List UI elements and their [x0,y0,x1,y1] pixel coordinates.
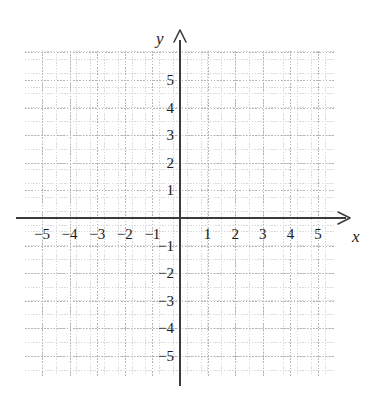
x-tick-label: 1 [204,227,212,242]
gridline-vertical [70,51,71,376]
gridline-vertical [290,51,291,376]
y-tick-label: 4 [167,100,175,115]
coordinate-plane-figure: · · · −5−4−3−2−11234554321−1−2−3−4−5 x y [0,0,379,403]
x-axis-line [16,217,346,219]
y-tick-label: −5 [158,349,174,364]
gridline-vertical [97,51,98,376]
y-tick-label: 1 [167,183,175,198]
y-axis-arrow-icon [172,28,188,44]
x-tick-label: −3 [89,227,105,242]
x-axis-label: x [352,228,360,245]
clipped-text-remnant: · · · [0,0,379,5]
y-tick-label: 3 [167,128,175,143]
y-tick-label: 5 [167,73,175,88]
x-tick-label: −2 [117,227,133,242]
y-tick-label: −4 [158,321,174,336]
y-tick-label: 2 [167,155,175,170]
gridline-vertical [208,51,209,376]
x-axis-arrow-icon [337,210,353,226]
gridline-vertical [152,51,153,376]
x-tick-label: −5 [34,227,50,242]
x-tick-label: 4 [287,227,295,242]
gridline-vertical [42,51,43,376]
x-tick-label: 5 [314,227,322,242]
x-tick-label: 3 [259,227,267,242]
y-axis-line [179,40,181,386]
y-tick-label: −1 [158,238,174,253]
x-tick-label: −4 [62,227,78,242]
gridline-vertical [125,51,126,376]
y-axis-label: y [156,30,164,47]
y-tick-label: −2 [158,266,174,281]
y-tick-label: −3 [158,293,174,308]
gridline-vertical [263,51,264,376]
gridline-vertical [235,51,236,376]
x-tick-label: 2 [231,227,239,242]
gridline-vertical [318,51,319,376]
